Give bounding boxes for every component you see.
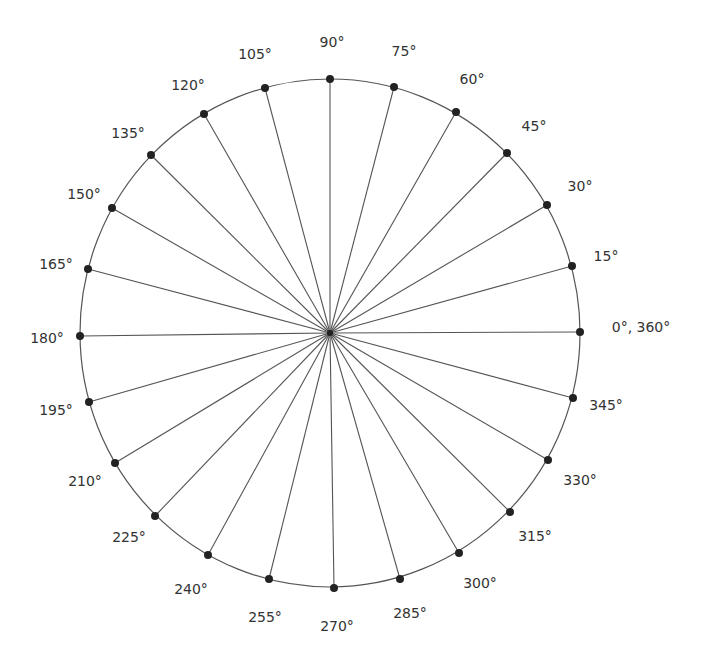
spoke-line: [89, 333, 330, 402]
angle-point: [265, 575, 273, 583]
angle-point: [76, 332, 84, 340]
spoke-line: [330, 333, 334, 588]
angle-label: 180°: [30, 330, 64, 346]
spoke-line: [265, 88, 330, 333]
angle-label: 90°: [320, 34, 345, 50]
angle-point: [84, 265, 92, 273]
spoke-line: [330, 153, 507, 333]
angle-label: 150°: [67, 186, 101, 202]
angle-point: [326, 75, 334, 83]
spoke-line: [330, 333, 400, 579]
angle-label: 300°: [463, 575, 497, 591]
angle-point: [204, 551, 212, 559]
angle-label: 210°: [68, 473, 102, 489]
angle-label: 0°, 360°: [612, 319, 671, 335]
spoke-line: [112, 208, 330, 333]
angle-label: 315°: [518, 528, 552, 544]
spoke-line: [88, 269, 330, 333]
angle-point: [506, 508, 514, 516]
angle-point: [452, 108, 460, 116]
spoke-line: [330, 87, 394, 333]
spoke-line: [330, 332, 580, 333]
spoke-line: [330, 333, 459, 553]
angle-label: 195°: [39, 402, 73, 418]
angle-label: 75°: [392, 43, 417, 59]
angle-point: [569, 394, 577, 402]
angle-label: 15°: [594, 248, 619, 264]
angle-point: [261, 84, 269, 92]
angle-point: [200, 110, 208, 118]
spoke-line: [151, 155, 330, 333]
angle-point: [85, 398, 93, 406]
angle-point: [390, 83, 398, 91]
angle-circle-diagram: 0°, 360°15°30°45°60°75°90°105°120°135°15…: [0, 0, 703, 665]
spoke-line: [155, 333, 330, 516]
spoke-line: [80, 333, 330, 336]
angle-point: [147, 151, 155, 159]
angle-point: [396, 575, 404, 583]
angle-label: 105°: [238, 46, 272, 62]
angle-label: 270°: [320, 618, 354, 634]
angle-point: [568, 262, 576, 270]
angle-point: [111, 459, 119, 467]
angle-point: [503, 149, 511, 157]
angle-label: 255°: [248, 609, 282, 625]
angle-point: [330, 584, 338, 592]
angle-point: [544, 456, 552, 464]
center-point: [327, 330, 333, 336]
spoke-line: [115, 333, 330, 463]
angle-label: 345°: [589, 397, 623, 413]
angle-label: 225°: [112, 529, 146, 545]
angle-label: 285°: [393, 605, 427, 621]
spoke-line: [330, 112, 456, 333]
angle-label: 135°: [111, 125, 145, 141]
spoke-line: [204, 114, 330, 333]
angle-point: [543, 201, 551, 209]
angle-point: [108, 204, 116, 212]
angle-point: [151, 512, 159, 520]
circle-graphic: [0, 0, 703, 665]
angle-point: [455, 549, 463, 557]
angle-label: 45°: [522, 118, 547, 134]
spoke-line: [269, 333, 330, 579]
spoke-line: [330, 333, 573, 398]
angle-point: [576, 328, 584, 336]
spoke-line: [330, 205, 547, 333]
angle-label: 60°: [460, 71, 485, 87]
angle-label: 240°: [174, 581, 208, 597]
angle-label: 330°: [563, 472, 597, 488]
spoke-line: [208, 333, 330, 555]
spoke-line: [330, 266, 572, 333]
angle-label: 165°: [39, 256, 73, 272]
angle-label: 120°: [171, 77, 205, 93]
angle-label: 30°: [568, 178, 593, 194]
